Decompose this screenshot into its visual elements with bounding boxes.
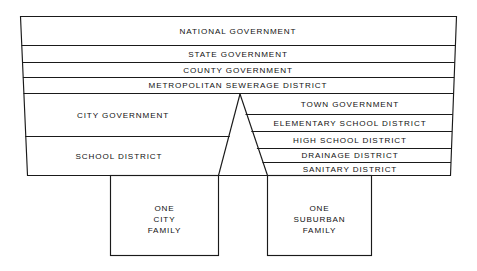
diagram-canvas: NATIONAL GOVERNMENT STATE GOVERNMENT COU…: [0, 0, 477, 271]
label-high-school-district: HIGH SCHOOL DISTRICT: [293, 136, 407, 145]
city-family-line-3: FAMILY: [148, 226, 182, 235]
label-metropolitan-sewerage-district: METROPOLITAN SEWERAGE DISTRICT: [149, 81, 328, 90]
label-sanitary-district: SANITARY DISTRICT: [303, 165, 397, 174]
city-family-line-2: CITY: [153, 215, 175, 224]
city-family-line-1: ONE: [154, 204, 174, 213]
label-school-district: SCHOOL DISTRICT: [76, 152, 163, 161]
suburban-family-line-3: FAMILY: [303, 226, 337, 235]
suburban-family-line-1: ONE: [309, 204, 329, 213]
split-wedge-right-leg: [240, 94, 268, 176]
suburban-family-line-2: SUBURBAN: [293, 215, 345, 224]
split-wedge-left-leg: [219, 94, 241, 176]
label-national-government: NATIONAL GOVERNMENT: [180, 27, 297, 36]
government-layers-diagram: NATIONAL GOVERNMENT STATE GOVERNMENT COU…: [0, 0, 477, 271]
label-city-government: CITY GOVERNMENT: [77, 111, 169, 120]
label-county-government: COUNTY GOVERNMENT: [183, 66, 293, 75]
label-elementary-school-district: ELEMENTARY SCHOOL DISTRICT: [273, 119, 426, 128]
label-town-government: TOWN GOVERNMENT: [301, 100, 399, 109]
label-drainage-district: DRAINAGE DISTRICT: [301, 151, 398, 160]
label-state-government: STATE GOVERNMENT: [188, 50, 288, 59]
